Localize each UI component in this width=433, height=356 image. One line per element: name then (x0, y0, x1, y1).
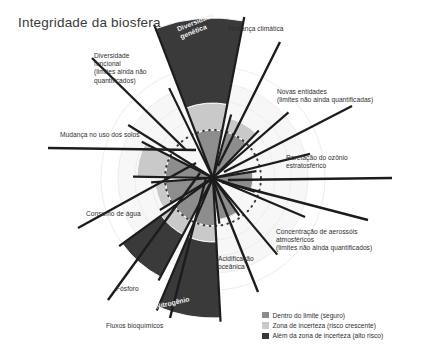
label-line: Acidificação (218, 255, 254, 263)
label-line: Fluxos bioquímicos (106, 322, 163, 330)
legend-label: Zona de incerteza (risco crescente) (273, 322, 376, 329)
label-mudanca-climatica: Mudança climática (228, 25, 283, 33)
legend-item-beyond[interactable]: Além da zona de incerteza (alto risco) (262, 331, 430, 341)
label-line: (limites não ainda quantificadas) (277, 96, 373, 104)
label-diversidade-funcional: Diversidadefuncional(limites ainda nãoqu… (94, 52, 147, 85)
label-line: oceânica (218, 263, 254, 271)
label-line: estratosférico (286, 162, 348, 170)
label-line: Consumo de água (86, 210, 141, 218)
label-fluxos-bioquimicos: Fluxos bioquímicos (106, 322, 163, 330)
legend-item-safe[interactable]: Dentro do limite (seguro) (262, 310, 430, 320)
radial-boundaries-chart (0, 0, 433, 356)
legend-label: Dentro do limite (seguro) (273, 312, 346, 319)
label-line: Mudança climática (228, 25, 283, 33)
label-line: (limites não ainda quantificados) (276, 244, 372, 252)
legend-swatch-beyond (262, 333, 269, 340)
legend-swatch-safe (262, 312, 269, 319)
legend-label: Além da zona de incerteza (alto risco) (273, 332, 384, 339)
label-line: Novas entidades (277, 88, 373, 96)
label-line: Mudança no uso dos solos (60, 131, 140, 139)
legend-swatch-uncertainty (262, 322, 269, 329)
label-line: Fósforo (116, 285, 139, 293)
label-aerossois: Concentração de aerossóisatmosféricos(li… (276, 228, 372, 253)
legend: Dentro do limite (seguro)Zona de incerte… (262, 310, 430, 341)
label-line: (limites ainda não (94, 68, 147, 76)
label-novas-entidades: Novas entidades(limites não ainda quanti… (277, 88, 373, 104)
legend-item-uncertainty[interactable]: Zona de incerteza (risco crescente) (262, 320, 430, 330)
page-title: Integridade da biosfera (18, 15, 161, 30)
label-line: Rarefação do ozônio (286, 154, 348, 162)
label-rarefacao-ozonio: Rarefação do ozônioestratosférico (286, 154, 348, 170)
label-line: funcional (94, 60, 147, 68)
label-mudanca-uso-solos: Mudança no uso dos solos (60, 131, 140, 139)
label-line: Concentração de aerossóis (276, 228, 372, 236)
label-line: quantificados) (94, 77, 147, 85)
label-acidificacao-oceanica: Acidificaçãooceânica (218, 255, 254, 271)
label-line: atmosféricos (276, 236, 372, 244)
label-fosforo: Fósforo (116, 285, 139, 293)
label-line: Diversidade (94, 52, 147, 60)
label-consumo-de-agua: Consumo de água (86, 210, 141, 218)
